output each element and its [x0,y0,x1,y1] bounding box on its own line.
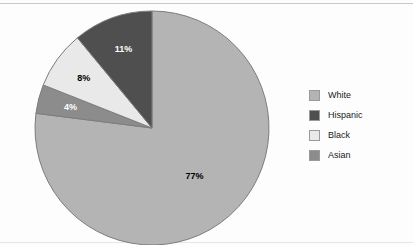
legend-item-label: Black [328,130,350,140]
chart-plot-area: 77% 4% 8% 11% [0,0,300,245]
legend-swatch-icon [309,90,320,101]
legend-item-label: Hispanic [328,110,363,120]
legend-swatch-icon [309,110,320,121]
legend-item-asian: Asian [309,145,405,165]
chart-legend: White Hispanic Black Asian [309,85,405,165]
pie-chart-figure: 77% 4% 8% 11% White Hispanic Black Asian [0,0,413,245]
legend-item-label: White [328,90,351,100]
legend-item-hispanic: Hispanic [309,105,405,125]
legend-item-white: White [309,85,405,105]
legend-item-label: Asian [328,150,351,160]
legend-swatch-icon [309,150,320,161]
legend-item-black: Black [309,125,405,145]
pie-slices-group [35,11,269,245]
pie-graphic [34,10,270,245]
legend-swatch-icon [309,130,320,141]
